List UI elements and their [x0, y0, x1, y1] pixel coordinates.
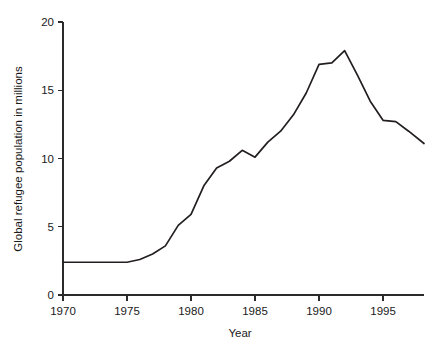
- x-axis-ticks: [63, 295, 383, 301]
- y-axis-title: Global refugee population in millions: [12, 66, 24, 252]
- x-tick-label: 1985: [242, 305, 268, 317]
- y-tick-label: 20: [41, 16, 54, 28]
- data-series-line: [63, 51, 424, 263]
- chart-canvas: 05101520 197019751980198519901995 Global…: [0, 0, 440, 358]
- y-tick-label: 15: [41, 84, 54, 96]
- x-tick-label: 1970: [50, 305, 76, 317]
- x-axis-title: Year: [228, 327, 251, 339]
- y-axis-ticks: [58, 22, 63, 295]
- x-tick-label: 1990: [306, 305, 332, 317]
- x-tick-label: 1980: [178, 305, 204, 317]
- y-tick-label: 10: [41, 153, 54, 165]
- y-tick-label: 0: [48, 289, 54, 301]
- y-tick-label: 5: [48, 221, 54, 233]
- x-tick-label: 1995: [370, 305, 396, 317]
- x-tick-label: 1975: [114, 305, 140, 317]
- y-axis-tick-labels: 05101520: [41, 16, 54, 301]
- line-chart: 05101520 197019751980198519901995 Global…: [0, 0, 440, 358]
- x-axis-tick-labels: 197019751980198519901995: [50, 305, 396, 317]
